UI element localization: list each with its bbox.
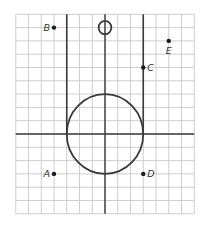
point-label-a: A [43,168,51,179]
coordinate-diagram: ABCDE [0,0,205,228]
point-label-d: D [147,168,154,179]
point-e [167,39,171,43]
point-a [52,172,56,176]
point-d [141,172,145,176]
point-label-b: B [43,22,50,33]
point-b [52,25,56,29]
point-label-c: C [147,62,154,73]
point-c [141,65,145,69]
points: ABCDE [43,22,172,179]
point-label-e: E [166,45,172,56]
